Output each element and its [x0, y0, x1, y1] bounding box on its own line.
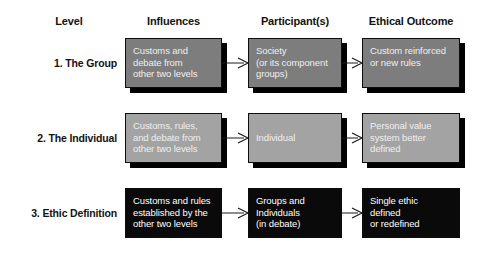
row-label-ethic-definition: 3. Ethic Definition	[9, 206, 117, 220]
box-text: Individual	[256, 132, 295, 144]
ethics-levels-diagram: Level Influences Participant(s) Ethical …	[0, 0, 482, 257]
box-row1-participants: Society (or its component groups)	[248, 38, 342, 88]
column-header-participants: Participant(s)	[248, 14, 342, 28]
row-label-the-group: 1. The Group	[9, 56, 117, 70]
box-row3-participants: Groups and Individuals (in debate)	[248, 188, 342, 238]
column-header-influences: Influences	[125, 14, 222, 28]
box-row1-outcome: Custom reinforced or new rules	[362, 38, 460, 88]
column-header-ethical-outcome: Ethical Outcome	[362, 14, 460, 28]
box-row1-influences: Customs and debate from other two levels	[125, 38, 222, 88]
box-row2-influences: Customs, rules, and debate from other tw…	[125, 113, 222, 163]
row-label-the-individual: 2. The Individual	[9, 131, 117, 145]
box-text: Society (or its component groups)	[256, 45, 341, 80]
box-row2-outcome: Personal value system better defined	[362, 113, 460, 163]
box-row3-outcome: Single ethic defined or redefined	[362, 188, 460, 238]
box-text: Groups and Individuals (in debate)	[256, 195, 341, 230]
box-text: Personal value system better defined	[370, 120, 459, 155]
box-text: Custom reinforced or new rules	[370, 45, 459, 68]
box-row3-influences: Customs and rules established by the oth…	[125, 188, 222, 238]
box-text: Customs and rules established by the oth…	[133, 195, 221, 230]
box-text: Customs and debate from other two levels	[133, 45, 221, 80]
arrow-row3-influences-to-participants	[222, 206, 250, 220]
arrow-row3-participants-to-outcome	[342, 206, 364, 220]
box-row2-participants: Individual	[248, 113, 342, 163]
box-text: Customs, rules, and debate from other tw…	[133, 120, 221, 155]
box-text: Single ethic defined or redefined	[370, 195, 459, 230]
column-header-level: Level	[15, 14, 123, 28]
